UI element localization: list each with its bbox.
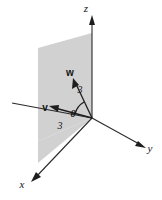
y-axis [92, 118, 141, 145]
diagram-canvas: z y x w 3 v 3 θ [0, 0, 162, 200]
vector-v-magnitude-label: 3 [57, 120, 63, 131]
vector-w-label: w [65, 67, 74, 78]
y-axis-label: y [147, 142, 153, 154]
vector-diagram-figure: z y x w 3 v 3 θ [0, 0, 162, 200]
vector-v-label: v [42, 102, 48, 113]
z-axis-label: z [83, 2, 89, 14]
vector-w-magnitude-label: 3 [77, 84, 83, 95]
angle-theta-label: θ [70, 108, 76, 119]
z-axis-arrowhead [89, 15, 95, 25]
x-axis-label: x [19, 178, 25, 190]
shaded-plane [38, 33, 92, 141]
